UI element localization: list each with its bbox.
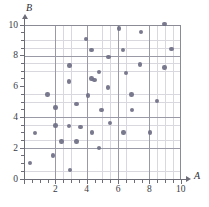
x-tick-label: 4 [84,184,89,194]
y-axis-tick [21,94,24,95]
data-point [90,130,94,134]
x-tick-label: 8 [147,184,152,194]
data-point [45,92,49,96]
x-axis-title: A [194,170,200,181]
y-axis-tick [21,171,24,172]
x-tick-label: 10 [176,184,186,194]
data-point [108,121,112,125]
data-point [130,108,134,112]
x-axis-tick [157,180,158,183]
x-axis-line [24,179,188,180]
y-axis-tick [21,140,24,141]
y-axis-tick [21,63,24,64]
y-tick-label: 6 [13,81,18,91]
y-axis-tick [20,25,25,26]
data-point [86,93,90,97]
data-point [68,168,72,172]
y-axis-tick [21,32,24,33]
x-axis-tick [24,180,25,185]
plot-area [24,25,181,179]
data-point [99,108,103,112]
x-axis-tick [126,180,127,183]
y-axis-tick [21,102,24,103]
data-point [59,139,63,143]
x-axis-tick [71,180,72,183]
data-point [121,130,125,134]
x-axis-tick [110,180,111,183]
data-point [169,47,173,51]
data-point [74,139,78,143]
y-axis-tick [20,179,25,180]
data-point [139,30,143,34]
x-axis-tick [165,180,166,183]
y-axis-tick [21,40,24,41]
plot-frame-right [180,25,181,179]
y-axis-tick [21,125,24,126]
y-axis-tick [21,78,24,79]
data-point [124,71,128,75]
data-point [53,123,57,127]
data-point [89,48,93,52]
x-axis-tick [48,180,49,183]
data-point [148,130,152,134]
x-axis-tick [79,180,80,183]
x-axis-tick [32,180,33,183]
x-axis-tick [102,180,103,183]
y-axis-tick [20,86,25,87]
x-axis-tick [134,180,135,183]
data-point [28,161,32,165]
data-point [67,124,71,128]
y-axis-arrow-icon [22,14,28,19]
x-axis-tick [173,180,174,183]
data-point [106,85,110,89]
y-axis-line [24,18,25,179]
data-point [92,78,96,82]
data-point [67,79,71,83]
y-axis-tick [20,148,25,149]
y-tick-label: 10 [9,20,19,30]
y-axis-tick [21,71,24,72]
y-axis-tick [21,48,24,49]
data-point [162,22,166,26]
y-tick-label: 4 [13,112,18,122]
data-point [97,146,101,150]
y-tick-label: 2 [13,143,18,153]
y-axis-tick [21,109,24,110]
data-point [121,48,125,52]
y-axis-tick [20,117,25,118]
x-tick-label: 2 [53,184,58,194]
x-axis-tick [142,180,143,183]
data-point [155,99,159,103]
x-axis-tick [95,180,96,183]
x-axis-arrow-icon [186,176,191,182]
y-axis-tick [21,132,24,133]
data-point [129,92,133,96]
data-point [53,105,57,109]
data-point [74,102,78,106]
x-axis-tick [63,180,64,183]
data-point [97,70,101,74]
y-tick-label: 0 [13,174,18,184]
scatter-plot-figure: B A 2468100246810 [0,0,209,207]
y-axis-tick [20,55,25,56]
plot-frame-top [24,25,181,26]
data-point [78,125,82,129]
data-point [138,62,142,66]
y-tick-label: 8 [13,50,18,60]
data-point [51,153,55,157]
y-axis-title: B [26,2,32,13]
x-axis-tick [40,180,41,183]
data-point [33,131,37,135]
data-point [84,37,88,41]
y-axis-tick [21,155,24,156]
y-axis-tick [21,163,24,164]
data-point [162,65,166,69]
x-tick-label: 6 [116,184,121,194]
data-point [106,55,110,59]
data-point [117,26,121,30]
data-point [67,63,71,67]
